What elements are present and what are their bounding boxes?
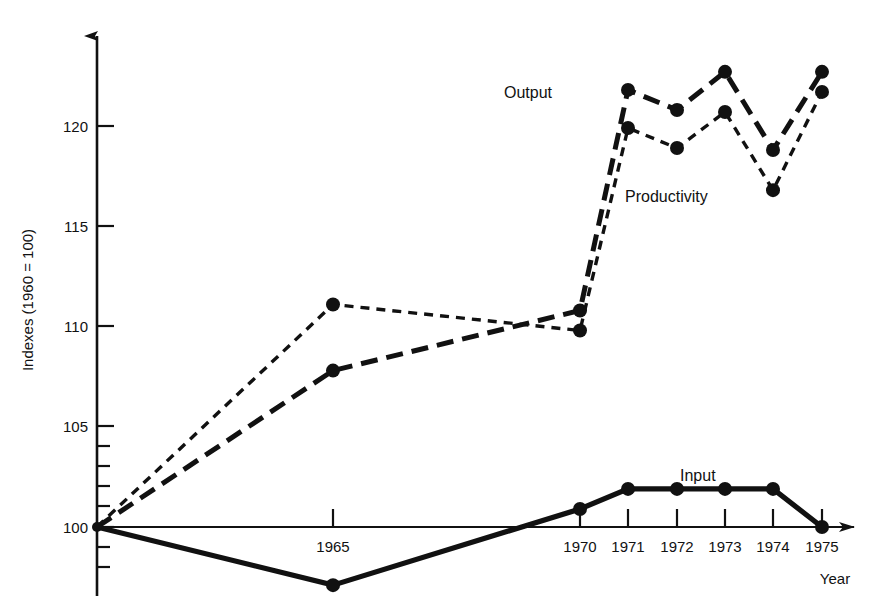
data-point-input-1975 <box>815 520 829 534</box>
data-point-input-1974 <box>766 482 780 496</box>
series-layer <box>92 65 829 592</box>
series-line-output <box>97 72 822 527</box>
y-axis-minor-ticks <box>97 446 110 567</box>
y-tick-label-100: 100 <box>63 519 88 536</box>
data-point-origin-1960 <box>92 522 102 532</box>
data-point-output-1965 <box>326 364 340 378</box>
data-point-input-1970 <box>573 502 587 516</box>
data-point-output-1973 <box>718 65 732 79</box>
data-point-output-1975 <box>815 65 829 79</box>
y-tick-label-115: 115 <box>64 218 88 235</box>
x-axis-title: Year <box>820 570 850 587</box>
y-tick-label-120: 120 <box>63 118 88 135</box>
series-annotation-input: Input <box>680 467 716 484</box>
chart-figure: 120 115 110 105 100 Indexes (1960 = 100)… <box>0 0 879 604</box>
data-point-output-1971 <box>621 83 635 97</box>
data-point-input-1965 <box>326 578 340 592</box>
y-tick-label-110: 110 <box>64 318 88 335</box>
chart-canvas: 120 115 110 105 100 Indexes (1960 = 100)… <box>0 0 879 604</box>
data-point-productivity-1975 <box>815 85 829 99</box>
data-point-output-1972 <box>670 103 684 117</box>
y-tick-label-105: 105 <box>63 418 88 435</box>
x-tick-label-1965: 1965 <box>316 538 349 555</box>
y-axis-title: Indexes (1960 = 100) <box>19 229 36 371</box>
series-line-productivity <box>97 92 822 527</box>
x-tick-label-1973: 1973 <box>708 538 741 555</box>
data-point-productivity-1973 <box>718 105 732 119</box>
data-point-input-1973 <box>718 482 732 496</box>
x-tick-label-1970: 1970 <box>563 538 596 555</box>
data-point-input-1972 <box>670 482 684 496</box>
x-tick-label-1974: 1974 <box>756 538 789 555</box>
x-tick-label-1975: 1975 <box>805 538 838 555</box>
data-point-productivity-1971 <box>621 121 635 135</box>
data-point-productivity-1965 <box>326 297 340 311</box>
data-point-output-1974 <box>766 143 780 157</box>
data-point-productivity-1974 <box>766 183 780 197</box>
data-point-input-1971 <box>621 482 635 496</box>
series-annotation-output: Output <box>504 84 553 101</box>
series-annotation-productivity: Productivity <box>625 188 708 205</box>
data-point-productivity-1972 <box>670 141 684 155</box>
x-tick-label-1971: 1971 <box>611 538 644 555</box>
x-tick-label-1972: 1972 <box>660 538 693 555</box>
data-point-productivity-1970 <box>573 324 587 338</box>
